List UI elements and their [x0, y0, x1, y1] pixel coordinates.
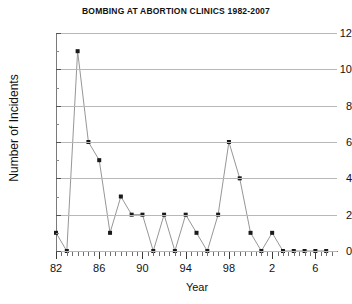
chart-title: BOMBING AT ABORTION CLINICS 1982-2007: [0, 6, 352, 16]
x-axis-minor-tick: [332, 252, 333, 256]
x-axis-major-tick: [56, 252, 57, 259]
x-axis-minor-tick: [310, 252, 311, 256]
x-axis-minor-tick: [83, 252, 84, 256]
y-axis-tick-label: 4: [330, 172, 352, 184]
x-axis-minor-tick: [164, 252, 165, 256]
y-axis-minor-tick: [56, 51, 59, 52]
x-axis-minor-tick: [126, 252, 127, 256]
y-axis-tick-mark: [56, 178, 61, 179]
x-axis-minor-tick: [121, 252, 122, 256]
gridline-horizontal: [56, 106, 337, 107]
plot-area: [56, 33, 337, 251]
x-axis-minor-tick: [132, 252, 133, 256]
y-axis-tick-mark: [56, 106, 61, 107]
data-point-marker: [249, 231, 253, 235]
x-axis-tick-label: 6: [300, 262, 330, 274]
x-axis-minor-tick: [175, 252, 176, 256]
y-axis-tick-label: 10: [330, 63, 352, 75]
x-axis-minor-tick: [110, 252, 111, 256]
x-axis-minor-tick: [197, 252, 198, 256]
y-axis-minor-tick: [56, 197, 59, 198]
chart-container: BOMBING AT ABORTION CLINICS 1982-2007 Nu…: [0, 0, 352, 304]
x-axis-major-tick: [186, 252, 187, 259]
data-point-marker: [119, 195, 123, 199]
x-axis-minor-tick: [305, 252, 306, 256]
y-axis-tick-label: 12: [330, 27, 352, 39]
series-polyline: [56, 51, 326, 251]
data-point-marker: [76, 49, 80, 53]
y-axis-minor-tick: [56, 124, 59, 125]
data-point-marker: [108, 231, 112, 235]
x-axis-minor-tick: [94, 252, 95, 256]
x-axis-minor-tick: [153, 252, 154, 256]
x-axis-minor-tick: [288, 252, 289, 256]
x-axis-major-tick: [142, 252, 143, 259]
y-axis-tick-labels: [26, 33, 52, 252]
x-axis-minor-tick: [234, 252, 235, 256]
x-axis-minor-tick: [78, 252, 79, 256]
x-axis-minor-tick: [299, 252, 300, 256]
x-axis-minor-tick: [261, 252, 262, 256]
x-axis-major-tick: [272, 252, 273, 259]
data-point-marker: [270, 231, 274, 235]
y-axis-tick-mark: [56, 69, 61, 70]
x-axis-minor-tick: [294, 252, 295, 256]
x-axis-minor-tick: [137, 252, 138, 256]
x-axis-minor-tick: [326, 252, 327, 256]
gridline-horizontal: [56, 215, 337, 216]
x-axis-minor-tick: [213, 252, 214, 256]
x-axis-title: Year: [56, 281, 338, 293]
x-axis-minor-tick: [202, 252, 203, 256]
x-axis-minor-tick: [67, 252, 68, 256]
y-axis-tick-label: 2: [330, 209, 352, 221]
x-axis-major-tick: [315, 252, 316, 259]
x-axis-minor-tick: [72, 252, 73, 256]
x-axis-major-tick: [229, 252, 230, 259]
y-axis-tick-label: 0: [330, 245, 352, 257]
x-axis-tick-label: 90: [127, 262, 157, 274]
x-axis-tick-label: 98: [214, 262, 244, 274]
x-axis-tick-label: 82: [41, 262, 71, 274]
x-axis-major-tick: [99, 252, 100, 259]
x-axis-minor-tick: [207, 252, 208, 256]
x-axis-minor-tick: [278, 252, 279, 256]
x-axis-minor-tick: [61, 252, 62, 256]
data-point-marker: [195, 231, 199, 235]
y-axis-minor-tick: [56, 233, 59, 234]
x-axis-tick-label: 2: [257, 262, 287, 274]
x-axis-minor-tick: [191, 252, 192, 256]
y-axis-tick-mark: [56, 142, 61, 143]
x-axis-minor-tick: [218, 252, 219, 256]
gridline-horizontal: [56, 178, 337, 179]
x-axis-minor-tick: [88, 252, 89, 256]
x-axis-minor-tick: [267, 252, 268, 256]
y-axis-tick-mark: [56, 33, 61, 34]
gridline-horizontal: [56, 142, 337, 143]
x-axis-minor-tick: [169, 252, 170, 256]
x-axis-minor-tick: [256, 252, 257, 256]
x-axis-minor-tick: [115, 252, 116, 256]
y-axis-tick-mark: [56, 215, 61, 216]
x-axis-minor-tick: [283, 252, 284, 256]
y-axis-minor-tick: [56, 160, 59, 161]
y-axis-minor-tick: [56, 88, 59, 89]
x-axis-minor-tick: [321, 252, 322, 256]
data-point-marker: [97, 158, 101, 162]
y-axis-tick-label: 8: [330, 100, 352, 112]
x-axis-tick-label: 86: [84, 262, 114, 274]
x-axis-minor-tick: [245, 252, 246, 256]
x-axis-minor-tick: [251, 252, 252, 256]
gridline-horizontal: [56, 69, 337, 70]
x-axis-minor-tick: [148, 252, 149, 256]
y-axis-title: Number of Incidents: [7, 13, 21, 243]
x-axis-tick-label: 94: [171, 262, 201, 274]
x-axis-minor-tick: [105, 252, 106, 256]
x-axis-minor-tick: [180, 252, 181, 256]
x-axis-minor-tick: [159, 252, 160, 256]
gridline-horizontal: [56, 33, 337, 34]
x-axis-minor-tick: [224, 252, 225, 256]
x-axis-minor-tick: [240, 252, 241, 256]
y-axis-tick-label: 6: [330, 136, 352, 148]
